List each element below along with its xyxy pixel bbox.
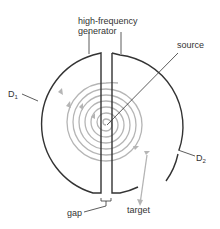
dee-d1 (42, 53, 101, 193)
d2-subscript: 2 (203, 158, 206, 164)
dee-d2-lower (112, 53, 138, 193)
generator-label-line1: high-frequency (78, 16, 138, 26)
dees (42, 53, 183, 193)
generator-label-line2: generator (78, 26, 117, 36)
target-label: target (127, 205, 150, 215)
d1-label: D1 (8, 89, 18, 102)
d1-subscript: 1 (15, 94, 18, 100)
source-label: source (177, 40, 204, 50)
d2-label: D2 (196, 153, 206, 166)
gap-label: gap (67, 208, 82, 218)
leader-lines (22, 32, 195, 212)
particle-spiral (67, 83, 147, 204)
dee-d2-outer (166, 154, 178, 181)
dee-d2-upper (112, 53, 183, 150)
